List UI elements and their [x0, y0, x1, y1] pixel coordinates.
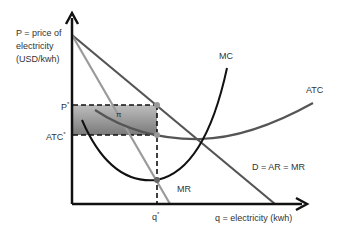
point-atc-star — [154, 132, 160, 138]
atc-star-label: ATC* — [46, 128, 66, 144]
y-axis-label: P = price of electricity (USD/kwh) — [16, 27, 62, 66]
atc-star-text: ATC — [46, 132, 63, 142]
mr-label: MR — [177, 183, 191, 196]
y-label-line2: electricity — [16, 40, 62, 53]
profit-label: π — [116, 108, 122, 121]
q-star-sup: * — [157, 211, 159, 217]
x-axis-label: q = electricity (kwh) — [215, 212, 292, 225]
atc-star-sup: * — [63, 131, 65, 137]
p-star-label: P* — [61, 98, 69, 114]
p-star-sup: * — [67, 101, 69, 107]
demand-label: D = AR = MR — [252, 161, 305, 174]
atc-label: ATC — [306, 84, 323, 97]
point-mr-mc — [154, 177, 160, 183]
point-p-star — [154, 102, 160, 108]
q-star-label: q* — [152, 208, 159, 224]
y-label-line3: (USD/kwh) — [16, 53, 62, 66]
y-label-line1: P = price of — [16, 27, 62, 40]
mc-label: MC — [219, 50, 233, 63]
